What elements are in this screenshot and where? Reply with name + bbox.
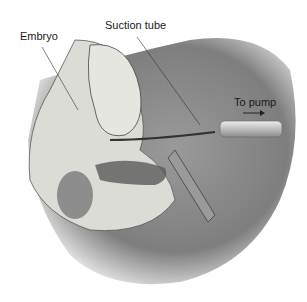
bladder xyxy=(57,171,93,219)
label-embryo: Embryo xyxy=(20,30,58,42)
label-suction-tube: Suction tube xyxy=(105,19,166,31)
pump-tube xyxy=(220,121,282,137)
label-to-pump: To pump xyxy=(234,96,276,108)
medical-illustration: Embryo Suction tube To pump xyxy=(0,0,307,302)
anatomy-drawing xyxy=(0,0,307,302)
